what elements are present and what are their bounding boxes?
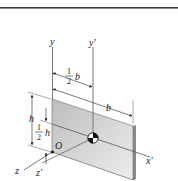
label-half-h: 1 2 h: [35, 123, 50, 142]
plate-diagram: y y′ x′ z z′ O 1 2 b b h 1 2 h: [0, 0, 178, 181]
origin-point: [51, 150, 54, 153]
label-h: h: [29, 113, 34, 124]
label-y: y: [49, 36, 55, 47]
label-b: b: [106, 102, 111, 113]
svg-text:1: 1: [37, 123, 41, 132]
label-z-prime: z′: [35, 167, 43, 178]
dim-h-top-ext: [28, 92, 51, 99]
label-half-b: 1 2 b: [65, 67, 80, 86]
label-y-prime: y′: [88, 37, 96, 48]
centroid-icon: [88, 133, 98, 143]
svg-text:1: 1: [67, 67, 71, 76]
svg-text:2: 2: [67, 77, 71, 86]
top-rule: [0, 7, 178, 9]
dim-half-b-line: [53, 73, 92, 87]
svg-text:b: b: [75, 71, 80, 82]
dim-h-bottom-ext: [28, 145, 51, 152]
label-x-prime: x′: [145, 155, 153, 166]
label-z: z: [14, 165, 19, 176]
svg-text:h: h: [45, 127, 50, 138]
label-origin: O: [55, 140, 62, 151]
svg-text:2: 2: [37, 133, 41, 142]
